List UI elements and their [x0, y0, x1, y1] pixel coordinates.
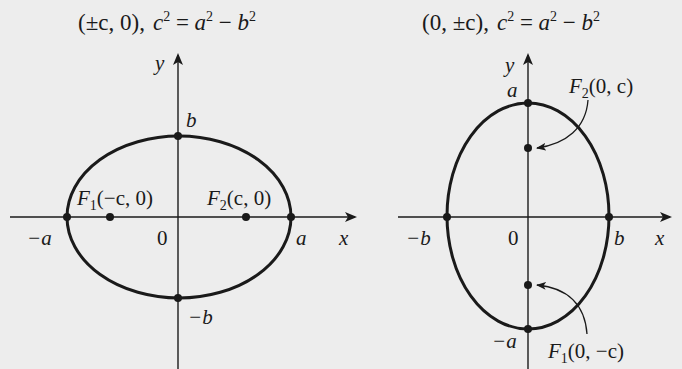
right-label-f1: F1(0, −c) — [547, 339, 624, 366]
left-covertex-neg-b — [174, 294, 182, 302]
left-caption: (±c, 0),c2 = a2 − b2 — [78, 9, 256, 35]
left-origin-label: 0 — [157, 226, 168, 250]
right-caption: (0, ±c),c2 = a2 − b2 — [422, 9, 600, 35]
right-covertex-pos-b — [605, 213, 613, 221]
right-label-f2: F2(0, c) — [568, 74, 633, 101]
left-x-axis-label: x — [338, 226, 349, 250]
right-focus-f2 — [524, 144, 532, 152]
left-focus-f2 — [242, 213, 250, 221]
left-vertex-neg-a — [63, 213, 71, 221]
left-label-neg-a: −a — [27, 226, 52, 250]
left-focus-f1 — [106, 213, 114, 221]
left-y-axis-label: y — [153, 51, 165, 75]
left-label-pos-a: a — [296, 226, 307, 250]
left-label-neg-b: −b — [188, 305, 213, 329]
right-focus-f1 — [524, 281, 532, 289]
left-label-f1: F1(−c, 0) — [76, 186, 153, 213]
right-label-pos-a: a — [507, 78, 518, 102]
ellipse-figure: (±c, 0),c2 = a2 − b2 y x 0 b −b −a a F1(… — [0, 0, 682, 369]
right-f2-leader-arrow — [537, 100, 588, 148]
right-covertex-neg-b — [443, 213, 451, 221]
right-vertex-neg-a — [524, 325, 532, 333]
left-label-f2: F2(c, 0) — [206, 186, 271, 213]
left-label-pos-b: b — [186, 108, 197, 132]
left-diagram: (±c, 0),c2 = a2 − b2 y x 0 b −b −a a F1(… — [10, 9, 355, 369]
right-y-axis-label: y — [503, 53, 515, 77]
right-label-neg-a: −a — [492, 329, 517, 353]
right-origin-label: 0 — [508, 226, 519, 250]
right-vertex-pos-a — [524, 99, 532, 107]
right-x-axis-label: x — [654, 226, 665, 250]
right-label-pos-b: b — [614, 226, 625, 250]
left-vertex-pos-a — [287, 213, 295, 221]
right-label-neg-b: −b — [406, 226, 431, 250]
right-diagram: (0, ±c),c2 = a2 − b2 y x 0 a −a −b b F2(… — [398, 9, 670, 369]
left-covertex-pos-b — [174, 132, 182, 140]
